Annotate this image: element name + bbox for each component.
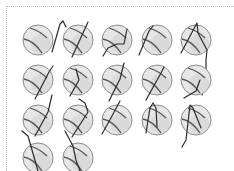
figure-frame [0,0,234,171]
baseball-grid [0,0,234,171]
baseball-image [181,105,211,135]
baseball-image [63,25,93,55]
baseball-image [23,25,53,55]
baseball-image [102,105,132,135]
baseball-image [142,25,172,55]
baseball-image [63,65,93,95]
baseball-image [63,105,93,135]
baseball-image [23,65,53,95]
baseball-image [23,143,53,171]
baseball-image [102,65,132,95]
